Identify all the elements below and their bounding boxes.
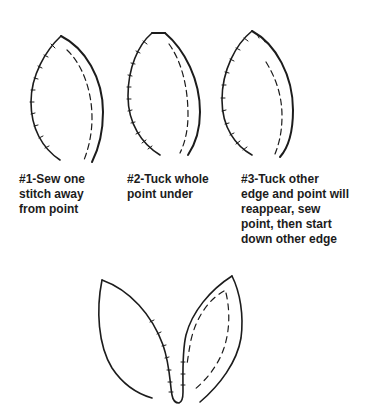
step-1-leaf-right-edge <box>61 36 103 162</box>
step-3-caption: #3-Tuck other edge and point will reappe… <box>241 172 349 247</box>
step-3-caption-line: reappear, sew <box>241 202 349 217</box>
step-2-caption: #2-Tuck whole point under <box>127 172 209 202</box>
step-2-fold-line <box>169 44 188 153</box>
step-3-caption-line: down other edge <box>241 232 349 247</box>
step-3-stitch-marks <box>221 34 272 150</box>
step-2-leaf-left-edge <box>128 33 160 155</box>
step-2-caption-line: point under <box>127 187 209 202</box>
step-3-leaf-illustration <box>221 31 293 157</box>
step-1-fold-line <box>67 50 92 160</box>
step-1-caption-line: stitch away <box>19 187 85 202</box>
step-2-leaf-right-edge <box>165 33 200 155</box>
step-3-caption-line: point, then start <box>241 217 349 232</box>
step-2-caption-line: #2-Tuck whole <box>127 172 209 187</box>
finished-left-leaf-inner-edge <box>102 276 232 403</box>
finished-left-leaf-outer-edge <box>99 280 152 398</box>
step-3-leaf-right-edge <box>252 31 293 157</box>
step-1-leaf-left-edge <box>31 36 61 160</box>
step-1-caption-line: #1-Sew one <box>19 172 85 187</box>
finished-stitch-marks <box>150 320 185 392</box>
step-1-caption: #1-Sew one stitch away from point <box>19 172 85 217</box>
step-2-leaf-illustration <box>127 33 200 155</box>
step-3-leaf-left-edge <box>222 31 252 155</box>
step-2-stitch-marks <box>127 41 152 149</box>
step-1-leaf-illustration <box>30 36 103 162</box>
step-1-caption-line: from point <box>19 202 85 217</box>
step-3-caption-line: #3-Tuck other <box>241 172 349 187</box>
finished-right-leaf-outer-edge <box>200 276 242 402</box>
finished-leaves-illustration <box>99 276 242 403</box>
step-3-fold-line <box>266 62 282 154</box>
step-3-caption-line: edge and point will <box>241 187 349 202</box>
finished-right-leaf-fold-line <box>187 291 229 390</box>
